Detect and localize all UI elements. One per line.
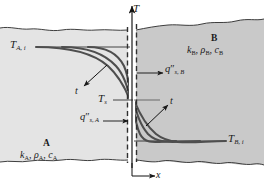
material-b-rho-sub: B	[205, 49, 209, 56]
material-b-label: B	[211, 34, 217, 44]
flux-a-sub: s, A	[89, 116, 99, 123]
material-a-rho: ρ	[34, 149, 39, 160]
x-axis-line	[132, 163, 155, 176]
t-b-initial-label: TB, i	[228, 133, 244, 144]
t-a-initial-label: TA, i	[10, 39, 26, 50]
material-a-properties: kA, ρA, cA	[20, 150, 57, 160]
material-b-c-sub: B	[219, 49, 223, 56]
position-axis-label: x	[156, 170, 160, 180]
t-a-initial-sub: A, i	[16, 44, 25, 51]
time-label-left: t	[75, 86, 78, 96]
flux-b-label: q″s, B	[165, 64, 184, 75]
material-a-rho-sub: A	[39, 154, 43, 161]
time-label-right: t	[170, 96, 173, 106]
t-b-initial-sub: B, i	[234, 138, 243, 145]
flux-a-label: q″s, A	[80, 112, 99, 123]
material-a-c-sub: A	[53, 154, 57, 161]
material-b-body	[136, 19, 264, 165]
t-surface-label: Ts	[98, 93, 107, 104]
material-a-k-sub: A	[24, 154, 28, 161]
t-surface-sub: s	[104, 98, 107, 105]
temperature-axis-label: T	[133, 3, 139, 14]
figure-container: T x TA, i TB, i Ts q″s, A q″s, B t t A k…	[0, 0, 264, 188]
material-b-properties: kB, ρB, cB	[187, 45, 223, 55]
material-a-c: c	[48, 149, 52, 160]
flux-b-sub: s, B	[174, 68, 184, 75]
material-a-label: A	[43, 139, 50, 149]
material-b-k-sub: B	[191, 49, 195, 56]
x-axis-group	[132, 163, 155, 176]
